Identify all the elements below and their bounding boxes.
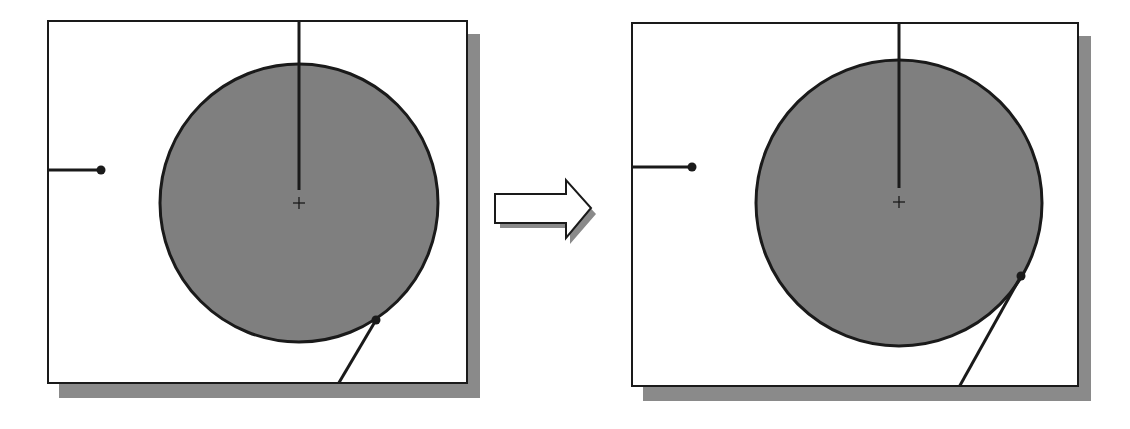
before-sketch <box>47 20 438 386</box>
right-arrow-icon <box>495 180 596 244</box>
before-tangent-point-icon[interactable] <box>372 316 381 325</box>
after-segment-endpoint-icon[interactable] <box>688 163 697 172</box>
before-segment-endpoint-icon[interactable] <box>97 166 106 175</box>
after-sketch <box>631 22 1042 389</box>
after-tangent-point-icon[interactable] <box>1017 272 1026 281</box>
diagram-canvas <box>0 0 1130 429</box>
